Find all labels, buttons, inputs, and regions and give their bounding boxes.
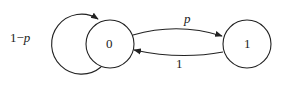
edge-1-to-0	[134, 50, 223, 56]
edge-label-self-loop: 1−p	[10, 30, 31, 45]
node-1-label: 1	[244, 36, 251, 51]
edge-label-1-to-0: 1	[176, 56, 183, 71]
edge-label-0-to-1: p	[183, 11, 191, 26]
markov-chain-diagram: 1−p p 1 0 1	[0, 0, 290, 90]
edge-0-to-1	[133, 29, 222, 36]
node-0-label: 0	[106, 36, 113, 51]
